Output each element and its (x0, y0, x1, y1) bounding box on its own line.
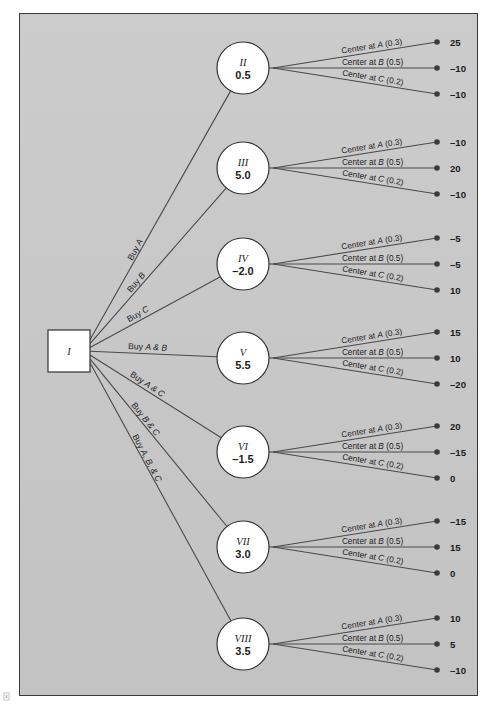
terminal-node-dot[interactable] (434, 329, 440, 335)
outcome-state-label: Center at B (0.5) (342, 157, 404, 167)
outcome-state-label: Center at B (0.5) (342, 441, 404, 451)
decision-tree-svg: Buy ABuy BBuy CBuy A & BBuy A & CBuy B &… (0, 0, 500, 722)
terminal-node-dot[interactable] (434, 235, 440, 241)
terminal-group: 25–10–10–1020–10–5–5101510–2020–150–1515… (434, 37, 466, 676)
branch-label: Buy A & B (128, 341, 168, 353)
terminal-payoff-value: 10 (450, 613, 461, 624)
chance-node-shape (217, 332, 269, 384)
terminal-payoff-value: –10 (450, 665, 466, 676)
terminal-node-dot[interactable] (434, 91, 440, 97)
terminal-payoff-value: 10 (450, 285, 461, 296)
terminal-node-dot[interactable] (434, 191, 440, 197)
terminal-payoff-value: 5 (450, 639, 456, 650)
chance-node-roman: VII (236, 536, 250, 547)
outcome-state-label: Center at B (0.5) (342, 633, 404, 643)
terminal-node-dot[interactable] (434, 475, 440, 481)
terminal-payoff-value: –5 (450, 259, 461, 270)
branch-label-group: Buy ABuy BBuy CBuy A & BBuy A & CBuy B &… (125, 237, 168, 484)
terminal-node-dot[interactable] (434, 381, 440, 387)
outcome-state-label: Center at B (0.5) (342, 347, 404, 357)
terminal-node-dot[interactable] (434, 355, 440, 361)
terminal-node-dot[interactable] (434, 287, 440, 293)
chance-node-shape (217, 142, 269, 194)
terminal-node-dot[interactable] (434, 667, 440, 673)
terminal-node-dot[interactable] (434, 39, 440, 45)
terminal-payoff-value: –10 (450, 189, 466, 200)
chance-node-roman: VI (238, 441, 248, 452)
terminal-payoff-value: –15 (450, 447, 467, 458)
chance-node-shape (217, 521, 269, 573)
terminal-node-dot[interactable] (434, 518, 440, 524)
chance-node[interactable]: VII3.0 (217, 521, 269, 573)
terminal-node-dot[interactable] (434, 423, 440, 429)
chance-label-group: Center at A (0.3)Center at B (0.5)Center… (341, 36, 405, 663)
branch-label: Buy A, B, & C (131, 432, 165, 484)
terminal-node-dot[interactable] (434, 65, 440, 71)
chance-node-roman: VIII (235, 633, 252, 644)
terminal-node-dot[interactable] (434, 261, 440, 267)
decision-branch-edge (90, 363, 231, 621)
terminal-payoff-value: 25 (450, 37, 461, 48)
chance-node-shape (217, 426, 269, 478)
terminal-node-dot[interactable] (434, 570, 440, 576)
chance-node-value: 0.5 (235, 69, 250, 81)
terminal-payoff-value: –10 (450, 89, 466, 100)
chance-node-roman: IV (237, 253, 249, 264)
chance-node[interactable]: II0.5 (217, 42, 269, 94)
terminal-payoff-value: 20 (450, 163, 461, 174)
terminal-node-dot[interactable] (434, 139, 440, 145)
chance-node[interactable]: IV–2.0 (217, 238, 269, 290)
chance-node[interactable]: VIII3.5 (217, 618, 269, 670)
chance-node-shape (217, 238, 269, 290)
terminal-payoff-value: –10 (450, 137, 466, 148)
page-edge-mark-icon (3, 692, 10, 701)
chance-node[interactable]: V5.5 (217, 332, 269, 384)
chance-node-shape (217, 618, 269, 670)
chance-node[interactable]: VI–1.5 (217, 426, 269, 478)
terminal-payoff-value: 15 (450, 327, 461, 338)
branch-label: Buy B & C (130, 400, 163, 438)
decision-node-root[interactable]: I (48, 330, 90, 372)
terminal-payoff-value: 10 (450, 353, 461, 364)
outcome-state-label: Center at B (0.5) (342, 253, 404, 263)
terminal-payoff-value: –10 (450, 63, 466, 74)
chance-node-value: 5.0 (235, 169, 250, 181)
terminal-payoff-value: –5 (450, 233, 461, 244)
chance-node-value: 3.0 (235, 548, 250, 560)
terminal-node-dot[interactable] (434, 544, 440, 550)
chance-node-roman: III (237, 157, 249, 168)
chance-node-value: –1.5 (232, 453, 253, 465)
chance-node-roman: II (239, 57, 247, 68)
terminal-payoff-value: 0 (450, 568, 455, 579)
terminal-payoff-value: 0 (450, 473, 455, 484)
terminal-payoff-value: –15 (450, 516, 467, 527)
terminal-payoff-value: 15 (450, 542, 461, 553)
outcome-state-label: Center at B (0.5) (342, 57, 404, 67)
figure-canvas: Buy ABuy BBuy CBuy A & BBuy A & CBuy B &… (0, 0, 500, 722)
terminal-node-dot[interactable] (434, 641, 440, 647)
decision-branch-edge (90, 91, 231, 340)
terminal-payoff-value: 20 (450, 421, 461, 432)
outcome-state-label: Center at B (0.5) (342, 536, 404, 546)
chance-node-value: –2.0 (232, 265, 253, 277)
chance-node[interactable]: III5.0 (217, 142, 269, 194)
terminal-payoff-value: –20 (450, 379, 466, 390)
branch-label: Buy A & C (128, 369, 167, 399)
terminal-node-dot[interactable] (434, 615, 440, 621)
decision-branch-edge (90, 188, 226, 344)
chance-node-value: 3.5 (235, 645, 250, 657)
root-node-label: I (66, 346, 71, 357)
terminal-node-dot[interactable] (434, 449, 440, 455)
decision-branch-edge (90, 359, 227, 527)
chance-node-shape (217, 42, 269, 94)
node-group: II0.5III5.0IV–2.0V5.5VI–1.5VII3.0VIII3.5 (217, 42, 269, 670)
chance-node-value: 5.5 (235, 359, 250, 371)
root-edge-group (90, 91, 231, 621)
decision-branch-edge (90, 277, 220, 348)
terminal-node-dot[interactable] (434, 165, 440, 171)
branch-label: Buy A (125, 237, 145, 262)
